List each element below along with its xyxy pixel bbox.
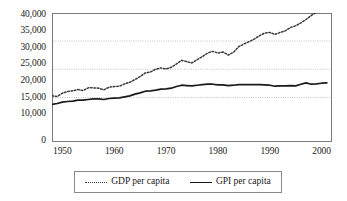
legend-label-gdp-per-capita: GDP per capita: [111, 177, 169, 187]
legend-swatch-solid-line-icon: [190, 179, 212, 186]
chart-figure: 40,00035,00030,00025,00020,00015,00010,0…: [0, 0, 347, 201]
x-axis-tick-label: 1960: [105, 147, 124, 157]
x-axis-tick-label: 1990: [260, 147, 279, 157]
legend-item-gpi-per-capita: GPI per capita: [190, 177, 271, 187]
x-axis-tick-label: 2000: [312, 147, 331, 157]
legend-item-gdp-per-capita: GDP per capita: [85, 177, 169, 187]
chart-legend: GDP per capita GPI per capita: [74, 171, 282, 193]
x-axis-tick-label: 1980: [209, 147, 228, 157]
x-axis-tick-label: 1970: [157, 147, 176, 157]
legend-label-gpi-per-capita: GPI per capita: [216, 177, 271, 187]
x-axis-tick-label: 1950: [53, 147, 72, 157]
legend-swatch-dotted-line-icon: [85, 179, 107, 186]
